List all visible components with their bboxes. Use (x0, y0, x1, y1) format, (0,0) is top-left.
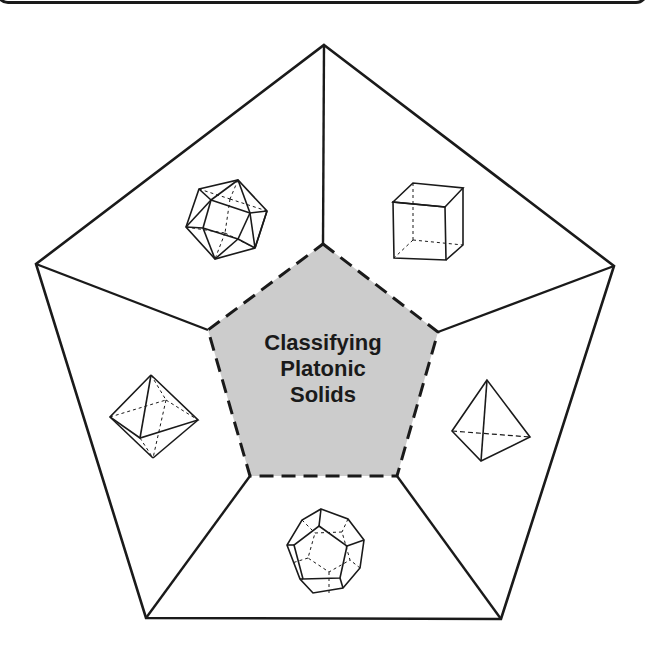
title-line-1: Classifying (223, 330, 423, 356)
title-line-3: Solids (223, 382, 423, 408)
title-line-2: Platonic (223, 356, 423, 382)
platonic-solids-diagram (0, 0, 650, 657)
center-title: Classifying Platonic Solids (223, 330, 423, 408)
